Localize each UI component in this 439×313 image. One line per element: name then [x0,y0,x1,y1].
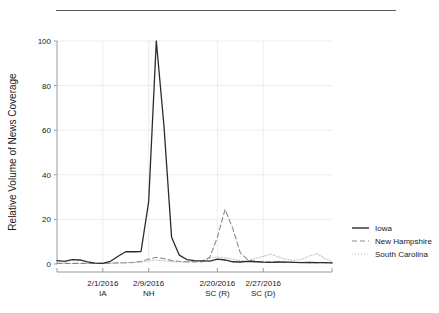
series-lines [57,41,332,264]
y-axis: 020406080100 [38,37,57,269]
legend-label: New Hampshire [375,237,432,246]
news-coverage-line-chart: 020406080100 2/1/2016IA2/9/2016NH2/20/20… [0,0,439,313]
chart-legend: IowaNew HampshireSouth Carolina [352,224,432,259]
y-tick-label: 100 [38,37,52,46]
y-tick-label: 80 [42,82,51,91]
grid-lines [57,41,332,264]
x-tick-label-state: NH [143,289,155,298]
x-tick-label-state: SC (R) [205,289,230,298]
legend-label: Iowa [375,224,392,233]
x-axis: 2/1/2016IA2/9/2016NH2/20/2016SC (R)2/27/… [57,268,332,298]
x-tick-label-date: 2/27/2016 [245,279,281,288]
header-rule [56,10,396,11]
x-tick-label-state: SC (D) [251,289,276,298]
series-line [57,209,332,263]
figure-container: 020406080100 2/1/2016IA2/9/2016NH2/20/20… [0,0,439,313]
legend-label: South Carolina [375,250,428,259]
series-line [57,41,332,263]
y-tick-label: 60 [42,126,51,135]
y-tick-label: 20 [42,215,51,224]
y-axis-title: Relative Volume of News Coverage [7,73,18,231]
x-tick-label-date: 2/9/2016 [133,279,165,288]
y-tick-label: 40 [42,171,51,180]
y-axis-title-group: Relative Volume of News Coverage [7,73,18,231]
x-tick-label-date: 2/20/2016 [200,279,236,288]
x-tick-label-date: 2/1/2016 [87,279,119,288]
x-tick-label-state: IA [99,289,107,298]
y-tick-label: 0 [47,260,52,269]
